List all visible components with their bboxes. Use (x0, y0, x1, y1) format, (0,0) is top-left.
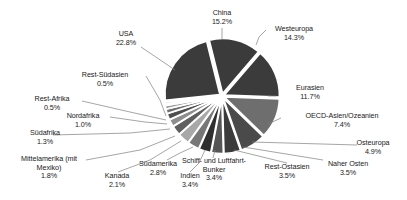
pie-label-kanada-value: 2.1% (88, 181, 146, 190)
pie-label-oecd-asien-ozeanien: OECD-Asien/Ozeanien 7.4% (283, 112, 401, 129)
pie-label-usa-value: 22.8% (98, 39, 154, 48)
pie-label-suedafrika-value: 1.3% (14, 138, 76, 147)
pie-label-nordafrika: Nordafrika 1.0% (52, 112, 114, 129)
pie-label-nordafrika-value: 1.0% (52, 121, 114, 130)
pie-label-eurasien: Eurasien 11.7% (278, 84, 342, 101)
pie-label-kanada: Kanada 2.1% (88, 172, 146, 189)
pie-label-mittelamerika-value: 1.8% (2, 172, 96, 181)
pie-label-rest-suedasien-value: 0.5% (66, 80, 144, 89)
pie-label-rest-afrika: Rest-Afrika 0.5% (20, 95, 84, 112)
pie-label-rest-afrika-value: 0.5% (20, 104, 84, 113)
pie-label-eurasien-value: 11.7% (278, 93, 342, 102)
leader-line-rest-suedasien (146, 76, 166, 116)
pie-label-westeuropa-value: 14.3% (252, 34, 336, 43)
pie-label-rest-ostasien: Rest-Ostasien 3.5% (250, 163, 324, 180)
pie-label-rest-ostasien-value: 3.5% (250, 172, 324, 181)
pie-slices (165, 38, 280, 153)
leader-line-mittelamerika (86, 136, 175, 160)
pie-label-naher-osten: Naher Osten 3.5% (314, 160, 382, 177)
pie-label-rest-suedasien: Rest-Südasien 0.5% (66, 71, 144, 88)
pie-label-suedafrika: Südafrika 1.3% (14, 129, 76, 146)
pie-label-usa: USA 22.8% (98, 30, 154, 47)
pie-label-mittelamerika-mit-mexiko: Mittelamerika (mit Mexiko) 1.8% (2, 155, 96, 181)
pie-chart: China 15.2% Westeuropa 14.3% Eurasien 11… (0, 0, 407, 200)
pie-label-osteuropa-value: 4.9% (342, 148, 404, 157)
pie-label-osteuropa: Osteuropa 4.9% (342, 139, 404, 156)
pie-label-oecd-value: 7.4% (283, 121, 401, 130)
pie-label-indien-value: 3.4% (160, 181, 220, 190)
pie-label-china-value: 15.2% (182, 18, 262, 27)
pie-label-china: China 15.2% (182, 9, 262, 26)
leader-line-usa (141, 47, 175, 70)
pie-label-naher-osten-value: 3.5% (314, 169, 382, 178)
pie-label-westeuropa: Westeuropa 14.3% (252, 25, 336, 42)
